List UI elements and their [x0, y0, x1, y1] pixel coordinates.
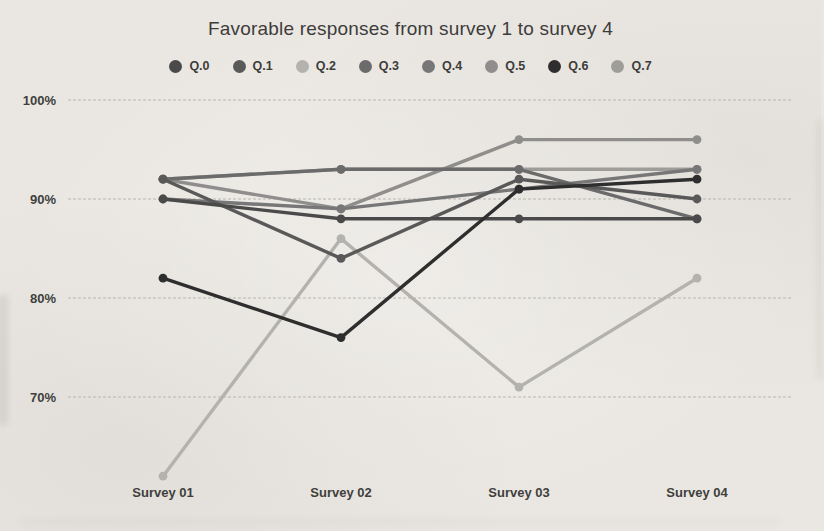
y-axis-tick-label: 70%: [4, 390, 56, 405]
data-point-q5: [693, 135, 702, 144]
y-axis-tick-label: 100%: [4, 93, 56, 108]
data-point-q6: [159, 274, 168, 283]
data-point-q1: [159, 175, 168, 184]
data-point-q2: [515, 383, 524, 392]
data-point-q6: [693, 175, 702, 184]
data-point-q2: [159, 472, 168, 481]
data-point-q3: [337, 165, 346, 174]
x-axis-tick-label: Survey 01: [132, 485, 193, 500]
data-point-q6: [337, 333, 346, 342]
data-point-q0: [515, 214, 524, 223]
y-axis-tick-label: 90%: [4, 192, 56, 207]
data-point-q3: [515, 165, 524, 174]
data-point-q0: [693, 214, 702, 223]
data-point-q1: [515, 175, 524, 184]
data-point-q6: [515, 185, 524, 194]
y-axis-tick-label: 80%: [4, 291, 56, 306]
data-point-q0: [159, 195, 168, 204]
data-point-q2: [693, 274, 702, 283]
series-line-q2: [163, 239, 697, 477]
x-axis-tick-label: Survey 04: [666, 485, 727, 500]
data-point-q2: [337, 234, 346, 243]
x-axis-tick-label: Survey 03: [488, 485, 549, 500]
data-point-q1: [337, 254, 346, 263]
data-point-q4: [693, 165, 702, 174]
x-axis-tick-label: Survey 02: [310, 485, 371, 500]
data-point-q0: [337, 214, 346, 223]
data-point-q5: [515, 135, 524, 144]
data-point-q4: [337, 205, 346, 214]
data-point-q1: [693, 195, 702, 204]
